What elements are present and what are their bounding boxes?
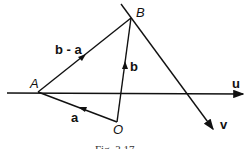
vector-diagram: A B O b - a b a u v Fig. 3.17 [0, 0, 248, 149]
point-a-label: A [29, 76, 39, 91]
vector-a-label: a [71, 110, 79, 125]
arrowhead-a [78, 107, 87, 112]
vector-v-label: v [220, 117, 228, 132]
point-o-label: O [113, 122, 123, 137]
point-b-label: B [136, 5, 145, 20]
vector-u-label: u [232, 76, 240, 91]
figure-caption: Fig. 3.17 [95, 143, 135, 149]
vector-b-minus-a-label: b - a [55, 42, 82, 57]
vector-b [117, 18, 131, 122]
vector-b-label: b [130, 59, 138, 74]
arrowhead-b [122, 61, 128, 69]
